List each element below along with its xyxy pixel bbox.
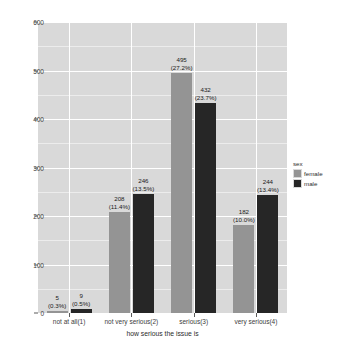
bar-female-3[interactable]: [233, 225, 254, 313]
bar-male-0[interactable]: [71, 309, 92, 313]
y-axis-tick-mark: [34, 167, 38, 168]
y-axis-tick-mark: [34, 119, 38, 120]
bar-male-1[interactable]: [133, 194, 154, 313]
bar-count: 244: [257, 178, 279, 186]
gridline-minor: [38, 46, 287, 47]
legend-label-male: male: [304, 180, 317, 187]
legend-title: sex: [293, 160, 323, 167]
gridline-major-vertical: [69, 22, 70, 313]
gridline-minor: [38, 95, 287, 96]
gridline-major: [38, 22, 287, 23]
bar-percent: (11.4%): [109, 203, 130, 211]
legend-item-male[interactable]: male: [293, 179, 323, 188]
y-axis-tick-label: 0: [40, 310, 44, 317]
x-axis-tick-label: serious(3): [179, 318, 208, 325]
bar-value-label: 432(23.7%): [195, 86, 217, 102]
bar-count: 208: [109, 195, 130, 203]
gridline-minor: [38, 143, 287, 144]
bar-female-1[interactable]: [109, 212, 130, 313]
y-axis-tick-mark: [34, 216, 38, 217]
x-axis-tick-label: not very serious(2): [104, 318, 158, 325]
legend-label-female: female: [304, 170, 323, 177]
bar-male-3[interactable]: [257, 195, 278, 313]
bar-count: 9: [72, 292, 90, 300]
bar-count: 495: [171, 56, 193, 64]
gridline-major: [38, 119, 287, 120]
legend-item-female[interactable]: female: [293, 169, 323, 178]
bar-count: 246: [133, 177, 155, 185]
x-axis-title: how serious the issue is: [38, 330, 287, 337]
bar-count: 5: [48, 294, 66, 302]
x-axis-tick-mark: [131, 313, 132, 317]
y-axis-tick-mark: [34, 264, 38, 265]
x-axis-tick-label: very serious(4): [234, 318, 277, 325]
bar-value-label: 9(0.5%): [72, 292, 90, 308]
bar-female-2[interactable]: [171, 73, 192, 313]
bar-female-0[interactable]: [47, 311, 68, 313]
bar-value-label: 495(27.2%): [171, 56, 193, 72]
y-axis-tick-mark: [34, 22, 38, 23]
bar-value-label: 208(11.4%): [109, 195, 130, 211]
bar-percent: (0.3%): [48, 302, 66, 310]
bar-percent: (13.5%): [133, 185, 155, 193]
bar-percent: (13.4%): [257, 186, 279, 194]
bar-chart: 0100200300400500600 5(0.3%)208(11.4%)495…: [0, 0, 341, 356]
gridline-minor: [38, 192, 287, 193]
gridline-major: [38, 168, 287, 169]
legend-swatch-female: [293, 169, 302, 178]
legend-swatch-male: [293, 179, 302, 188]
bar-value-label: 246(13.5%): [133, 177, 155, 193]
x-axis-tick-mark: [256, 313, 257, 317]
x-axis-tick-mark: [194, 313, 195, 317]
x-axis-tick-mark: [69, 313, 70, 317]
bar-count: 182: [233, 208, 255, 216]
bar-value-label: 5(0.3%): [48, 294, 66, 310]
bar-count: 432: [195, 86, 217, 94]
bar-percent: (23.7%): [195, 94, 217, 102]
bar-value-label: 182(10.0%): [233, 208, 255, 224]
bar-percent: (27.2%): [171, 64, 193, 72]
y-axis-tick-mark: [34, 313, 38, 314]
y-axis-tick-mark: [34, 70, 38, 71]
bar-percent: (0.5%): [72, 300, 90, 308]
bar-percent: (10.0%): [233, 216, 255, 224]
legend: sex female male: [293, 160, 323, 189]
bar-male-2[interactable]: [195, 103, 216, 313]
bar-value-label: 244(13.4%): [257, 178, 279, 194]
x-axis-tick-label: not at all(1): [53, 318, 86, 325]
gridline-major: [38, 71, 287, 72]
